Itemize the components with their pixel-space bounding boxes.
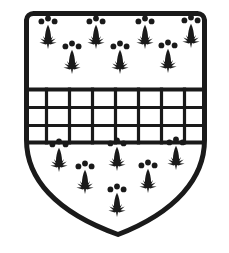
heraldic-shield-image: Coat of arms: shield with fess fretty be… bbox=[0, 0, 229, 253]
shield-drawing bbox=[0, 0, 229, 253]
fess-fretty bbox=[16, 89, 215, 143]
